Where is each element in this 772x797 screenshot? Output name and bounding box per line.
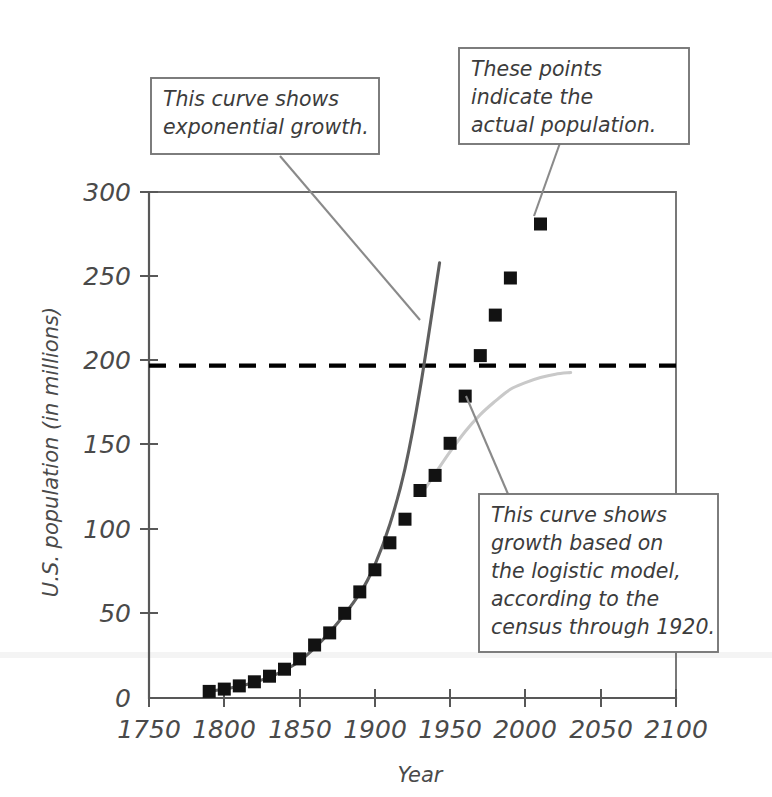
data-point-marker bbox=[383, 536, 396, 549]
data-point-marker bbox=[459, 390, 472, 403]
callout-exponential-line: exponential growth. bbox=[163, 115, 369, 139]
y-tick-label: 300 bbox=[83, 178, 131, 207]
x-tick-label: 2100 bbox=[644, 715, 708, 744]
x-tick-label: 1900 bbox=[343, 715, 407, 744]
data-point-marker bbox=[278, 663, 291, 676]
callout-points-line: actual population. bbox=[471, 113, 656, 137]
data-point-marker bbox=[368, 563, 381, 576]
data-point-marker bbox=[399, 513, 412, 526]
y-tick-label: 50 bbox=[99, 599, 131, 628]
x-tick-label: 2000 bbox=[493, 715, 557, 744]
data-point-marker bbox=[429, 469, 442, 482]
y-tick-label: 250 bbox=[83, 262, 131, 291]
data-point-marker bbox=[489, 309, 502, 322]
y-tick-label: 0 bbox=[115, 684, 131, 713]
callout-logistic-line: growth based on bbox=[491, 531, 663, 555]
data-point-marker bbox=[233, 679, 246, 692]
data-point-marker bbox=[293, 652, 306, 665]
data-point-marker bbox=[218, 683, 231, 696]
data-point-marker bbox=[414, 484, 427, 497]
x-tick-label: 1750 bbox=[117, 715, 181, 744]
data-point-marker bbox=[338, 607, 351, 620]
callout-points-line: These points bbox=[471, 57, 602, 81]
y-axis-title: U.S. population (in millions) bbox=[39, 307, 63, 597]
x-tick-label: 2050 bbox=[569, 715, 633, 744]
callout-logistic-line: This curve shows bbox=[491, 503, 667, 527]
callout-logistic-line: the logistic model, bbox=[491, 559, 681, 583]
data-point-marker bbox=[534, 218, 547, 231]
callout-logistic-line: according to the bbox=[491, 587, 659, 611]
y-tick-label: 100 bbox=[83, 515, 131, 544]
y-tick-label: 150 bbox=[83, 430, 131, 459]
data-point-marker bbox=[263, 670, 276, 683]
data-point-marker bbox=[308, 639, 321, 652]
population-growth-chart: 300 250 200 150 100 50 0 1750 1800 1850 … bbox=[0, 0, 772, 797]
x-tick-label: 1850 bbox=[268, 715, 332, 744]
x-axis-title: Year bbox=[398, 763, 444, 787]
callout-logistic-line: census through 1920. bbox=[491, 615, 715, 639]
data-point-marker bbox=[444, 437, 457, 450]
data-point-marker bbox=[203, 685, 216, 698]
data-point-marker bbox=[353, 585, 366, 598]
x-tick-label: 1800 bbox=[192, 715, 256, 744]
callout-points-line: indicate the bbox=[471, 85, 593, 109]
y-tick-label: 200 bbox=[83, 346, 131, 375]
data-point-marker bbox=[323, 626, 336, 639]
data-point-marker bbox=[504, 272, 517, 285]
data-point-marker bbox=[248, 675, 261, 688]
data-point-marker bbox=[474, 349, 487, 362]
callout-exponential-line: This curve shows bbox=[163, 87, 339, 111]
x-tick-label: 1950 bbox=[418, 715, 482, 744]
